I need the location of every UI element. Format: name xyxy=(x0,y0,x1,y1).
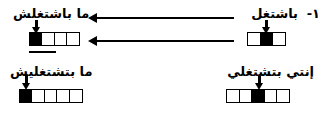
underline-dash xyxy=(29,51,56,53)
arrow-shaft xyxy=(95,17,234,19)
slot-row-target-masculine-negative xyxy=(29,32,80,46)
stress-pointer-target-feminine xyxy=(22,76,31,90)
derivation-arrow-top xyxy=(88,13,234,23)
stress-pointer-source-feminine xyxy=(255,76,264,90)
slot-row-source-masculine xyxy=(247,32,286,46)
slot-empty xyxy=(69,89,83,103)
slot-empty xyxy=(66,32,80,46)
arrow-shaft xyxy=(95,40,234,42)
slot-empty xyxy=(272,32,286,46)
slot-empty xyxy=(276,89,290,103)
label-target-masculine-negative: ما باشتغلش xyxy=(13,7,89,20)
label-source-feminine: إنتي بتشتغلي xyxy=(227,65,314,78)
slot-row-source-feminine xyxy=(226,89,290,103)
label-source-masculine: باشتغل xyxy=(251,7,298,20)
figure-canvas: ١- باشتغل ما باشتغلش إنتي بتشتغلي xyxy=(0,0,324,120)
slot-row-target-feminine-negative xyxy=(19,89,83,103)
derivation-arrow-bottom xyxy=(88,36,234,46)
item-index: ١- xyxy=(307,7,320,20)
